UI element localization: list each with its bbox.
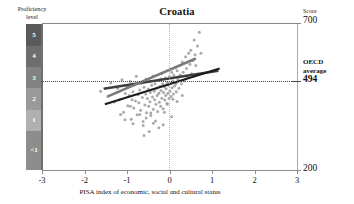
scatter-point xyxy=(152,108,155,111)
scatter-point xyxy=(194,64,197,67)
score-caption: Score xyxy=(303,8,317,14)
scatter-point xyxy=(154,103,157,106)
oecd-average-label: OECD average 494 xyxy=(303,58,351,84)
scatter-point xyxy=(171,86,174,89)
scatter-point xyxy=(119,113,122,116)
score-min-label: 200 xyxy=(303,163,317,173)
scatter-point xyxy=(131,90,134,93)
scatter-point xyxy=(193,39,196,42)
proficiency-band-label: 1 xyxy=(32,116,36,124)
scatter-point xyxy=(180,82,183,85)
scatter-point xyxy=(123,118,126,121)
proficiency-axis-label: Proficiency level xyxy=(8,5,56,20)
score-max-label: 700 xyxy=(303,15,317,25)
ytick-494 xyxy=(292,81,301,82)
scatter-point xyxy=(172,74,175,77)
scatter-point xyxy=(177,87,180,90)
xtick-mark xyxy=(127,170,128,174)
scatter-point xyxy=(138,88,141,91)
scatter-point xyxy=(143,103,146,106)
scatter-point xyxy=(189,49,192,52)
scatter-point xyxy=(185,67,188,70)
scatter-point xyxy=(136,113,139,116)
scatter-point xyxy=(172,93,175,96)
zero-reference-line xyxy=(169,24,170,170)
scatter-point xyxy=(144,93,147,96)
scatter-point xyxy=(158,101,161,104)
xtick-label: 2 xyxy=(245,175,265,185)
scatter-point xyxy=(149,112,152,115)
scatter-point xyxy=(160,97,163,100)
scatter-point xyxy=(135,75,138,78)
scatter-point xyxy=(131,98,134,101)
axis-right-line xyxy=(297,24,298,171)
scatter-point xyxy=(149,91,152,94)
scatter-point xyxy=(162,123,165,126)
scatter-point xyxy=(139,109,142,112)
scatter-point xyxy=(163,111,166,114)
scatter-point xyxy=(122,111,125,114)
xtick-label: -3 xyxy=(32,175,52,185)
scatter-point xyxy=(131,122,134,125)
scatter-point xyxy=(134,100,137,103)
scatter-point xyxy=(163,98,166,101)
xtick-mark xyxy=(212,170,213,174)
scatter-point xyxy=(147,105,150,108)
scatter-point xyxy=(170,115,173,118)
scatter-point xyxy=(132,107,135,110)
scatter-point xyxy=(145,117,148,120)
scatter-point xyxy=(148,130,151,133)
scatter-point xyxy=(99,90,102,93)
scatter-point xyxy=(160,89,163,92)
scatter-point xyxy=(162,91,165,94)
proficiency-band-label: 2 xyxy=(32,95,36,103)
x-axis-title: PISA index of economic, social and cultu… xyxy=(0,188,300,196)
xtick-label: 3 xyxy=(287,175,307,185)
scatter-point xyxy=(126,104,129,107)
proficiency-band-label: 4 xyxy=(32,52,36,60)
scatter-point xyxy=(157,126,160,129)
scatter-point xyxy=(156,110,159,113)
scatter-point xyxy=(146,97,149,100)
scatter-point xyxy=(171,98,174,101)
proficiency-band-5: 5 xyxy=(26,24,42,46)
oecd-line1: OECD xyxy=(303,58,351,67)
scatter-point xyxy=(157,92,160,95)
oecd-average-line xyxy=(42,81,298,82)
proficiency-band-label: <1 xyxy=(30,146,38,154)
scatter-point xyxy=(187,52,190,55)
scatter-point xyxy=(196,44,199,47)
scatter-point xyxy=(188,63,191,66)
xtick-mark xyxy=(255,170,256,174)
xtick-mark xyxy=(42,170,43,174)
chart-figure: Croatia Proficiency level 54321<1 Score … xyxy=(0,0,354,204)
scatter-point xyxy=(198,31,201,34)
scatter-point xyxy=(137,101,140,104)
oecd-value: 494 xyxy=(303,75,351,84)
scatter-point xyxy=(159,105,162,108)
scatter-point xyxy=(143,86,146,89)
proficiency-band-2: 2 xyxy=(26,88,42,109)
scatter-point xyxy=(194,53,197,56)
scatter-point xyxy=(150,84,153,87)
scatter-point xyxy=(170,95,173,98)
scatter-point xyxy=(162,107,165,110)
scatter-point xyxy=(154,82,157,85)
scatter-point xyxy=(148,100,151,103)
xtick-mark xyxy=(85,170,86,174)
xtick-label: -1 xyxy=(117,175,137,185)
xtick-mark xyxy=(170,170,171,174)
scatter-point xyxy=(138,113,141,116)
proficiency-band-3: 3 xyxy=(26,67,42,88)
proficiency-band-label: 3 xyxy=(32,74,36,82)
proficiency-label-line1: Proficiency xyxy=(8,5,56,13)
proficiency-band-4: 4 xyxy=(26,46,42,67)
scatter-point xyxy=(154,119,157,122)
proficiency-band-1: 1 xyxy=(26,110,42,131)
scatter-point xyxy=(142,124,145,127)
xtick-label: 0 xyxy=(160,175,180,185)
ytick-700 xyxy=(292,23,301,24)
scatter-point xyxy=(176,69,179,72)
scatter-point xyxy=(143,134,146,137)
scatter-point xyxy=(129,105,132,108)
